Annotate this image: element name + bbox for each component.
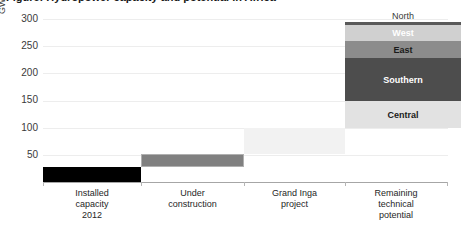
category-label-under-construction: Under construction (141, 188, 244, 210)
x-axis-baseline (43, 182, 448, 183)
category-remaining-line1: Remaining (345, 188, 447, 199)
category-installed-line1: Installed (43, 188, 141, 199)
y-tick-250: 250 (6, 41, 38, 51)
segment-west-label: West (392, 28, 413, 38)
segment-central-label: Central (387, 110, 418, 120)
segment-east-label: East (393, 45, 412, 55)
x-tick-1 (141, 182, 142, 186)
y-tick-300: 300 (6, 14, 38, 24)
category-under-line2: construction (141, 199, 244, 210)
y-tick-50: 50 (6, 150, 38, 160)
y-axis-unit-label: GW (0, 0, 7, 14)
category-installed-line2: capacity (43, 199, 141, 210)
x-tick-3 (345, 182, 346, 186)
y-tick-100: 100 (6, 123, 38, 133)
category-label-installed: Installed capacity 2012 (43, 188, 141, 221)
category-under-line1: Under (141, 188, 244, 199)
chart-title-text: Figure: Hydropower capacity and potentia… (6, 0, 276, 3)
segment-southern-label: Southern (383, 75, 423, 85)
y-tick-200: 200 (6, 68, 38, 78)
gridline-50 (43, 155, 448, 156)
category-inga-line2: project (244, 199, 345, 210)
category-installed-line3: 2012 (43, 210, 141, 221)
y-tick-150: 150 (6, 95, 38, 105)
bar-under-construction[interactable] (141, 154, 244, 167)
x-tick-0 (43, 182, 44, 186)
bar-grand-inga[interactable] (244, 128, 345, 154)
category-remaining-line2: technical (345, 199, 447, 210)
chart-title-cropped: Figure: Hydropower capacity and potentia… (0, 0, 451, 9)
x-tick-2 (244, 182, 245, 186)
segment-north[interactable] (345, 22, 461, 25)
segment-southern[interactable]: Southern (345, 58, 461, 101)
segment-north-label: North (345, 11, 461, 21)
category-inga-line1: Grand Inga (244, 188, 345, 199)
segment-central[interactable]: Central (345, 101, 461, 128)
bar-installed-capacity[interactable] (43, 167, 141, 182)
x-tick-4 (447, 182, 448, 186)
category-label-grand-inga: Grand Inga project (244, 188, 345, 210)
segment-east[interactable]: East (345, 41, 461, 58)
segment-west[interactable]: West (345, 25, 461, 41)
category-remaining-line3: potential (345, 210, 447, 221)
category-label-remaining: Remaining technical potential (345, 188, 447, 221)
plot-area: Central Southern East West (43, 19, 448, 182)
